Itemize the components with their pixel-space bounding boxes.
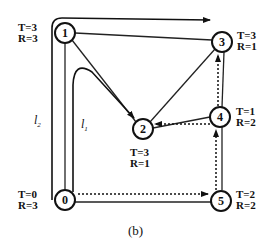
node-1-R: R=3 (18, 33, 38, 44)
node-2-label: 2 (140, 122, 146, 136)
node-4-label: 4 (217, 110, 223, 124)
node-5-annotation: T=2 R=2 (236, 189, 256, 211)
network-diagram: 0 1 2 3 4 5 (0, 0, 275, 250)
node-0-R: R=3 (18, 200, 38, 211)
node-5-label: 5 (218, 194, 224, 208)
node-3-R: R=1 (237, 41, 257, 52)
node-1-annotation: T=3 R=3 (18, 22, 38, 44)
node-1-label: 1 (62, 26, 68, 40)
edge-3-4 (222, 52, 224, 107)
node-4-annotation: T=1 R=2 (236, 106, 256, 128)
node-2-R: R=1 (130, 158, 150, 169)
node-0-label: 0 (62, 193, 68, 207)
node-0-annotation: T=0 R=3 (18, 189, 38, 211)
edges (65, 33, 224, 202)
node-3-annotation: T=3 R=1 (237, 30, 257, 52)
figure-caption: (b) (128, 223, 143, 239)
node-2-annotation: T=3 R=1 (130, 147, 150, 169)
path-l2-label: l2 (34, 113, 41, 129)
node-5-R: R=2 (236, 200, 256, 211)
path-l1-label: l1 (81, 117, 88, 133)
node-3-label: 3 (219, 35, 225, 49)
edge-2-4 (153, 117, 210, 128)
edge-1-3 (75, 33, 212, 40)
node-4-R: R=2 (236, 117, 256, 128)
edge-2-3 (150, 49, 215, 122)
